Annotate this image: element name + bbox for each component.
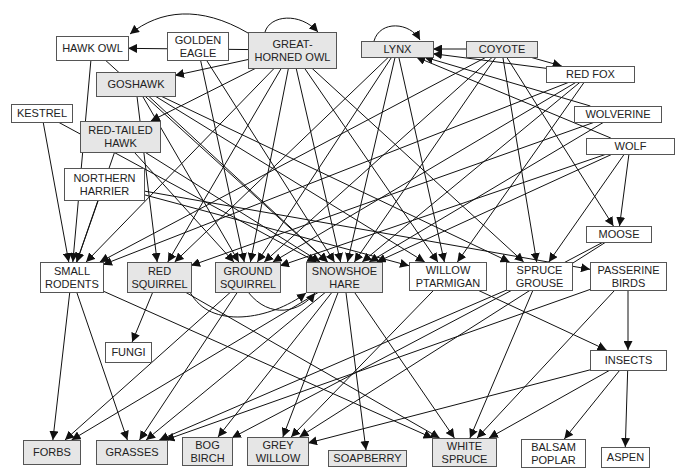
node-label: FORBS xyxy=(33,446,71,458)
node-label: SQUIRREL xyxy=(131,278,187,290)
node-label: GRASSES xyxy=(105,446,158,458)
edge-snowshoe-hare-to-soapberry xyxy=(346,292,366,450)
edge-coyote-to-ground-squirrel xyxy=(264,57,492,262)
node-label: PTARMIGAN xyxy=(416,277,481,289)
food-web-diagram: HAWK OWLGOLDENEAGLEGREAT-HORNED OWLLYNXC… xyxy=(0,0,679,475)
node-label: WHITE xyxy=(447,440,482,452)
node-label: POPLAR xyxy=(531,454,576,466)
edge-goshawk-to-willow-ptarmigan xyxy=(155,96,425,262)
node-label: LYNX xyxy=(384,43,413,55)
node-label: SMALL xyxy=(54,265,90,277)
edge-coyote-to-red-fox xyxy=(530,57,562,66)
node-great-horned-owl: GREAT-HORNED OWL xyxy=(249,33,337,69)
edge-snowshoe-hare-to-grey-willow xyxy=(283,292,338,437)
node-label: WILLOW xyxy=(256,452,301,464)
edge-coyote-to-spruce-grouse xyxy=(503,57,537,262)
node-label: BOG xyxy=(195,439,219,451)
node-balsam-poplar: BALSAMPOPLAR xyxy=(522,440,586,468)
edge-spruce-grouse-to-grasses xyxy=(159,290,506,440)
edge-great-horned-owl-to-small-rodents xyxy=(86,68,274,262)
node-goshawk: GOSHAWK xyxy=(97,73,176,97)
edge-ground-squirrel-to-forbs xyxy=(65,292,231,440)
node-label: HARE xyxy=(329,278,360,290)
edge-spruce-grouse-to-white-spruce xyxy=(470,290,533,438)
node-label: RODENTS xyxy=(45,278,99,290)
edge-great-horned-owl-to-snowshoe-hare xyxy=(296,68,340,262)
edge-insects-to-aspen xyxy=(625,370,627,447)
node-label: GOSHAWK xyxy=(107,78,165,90)
node-label: GROUSE xyxy=(516,277,564,289)
node-label: RED FOX xyxy=(566,68,616,80)
node-label: INSECTS xyxy=(605,354,653,366)
node-label: SQUIRREL xyxy=(220,278,276,290)
node-willow-ptarmigan: WILLOWPTARMIGAN xyxy=(410,263,487,291)
node-hawk-owl: HAWK OWL xyxy=(57,37,129,61)
node-label: BALSAM xyxy=(531,441,576,453)
node-label: GREY xyxy=(262,439,294,451)
node-insects: INSECTS xyxy=(591,351,667,371)
node-kestrel: KESTREL xyxy=(12,105,73,123)
node-red-fox: RED FOX xyxy=(547,67,635,83)
node-label: ASPEN xyxy=(607,451,644,463)
node-label: SOAPBERRY xyxy=(333,452,402,464)
node-label: MOOSE xyxy=(599,228,640,240)
node-wolf: WOLF xyxy=(587,139,675,155)
edge-snowshoe-hare-to-grasses xyxy=(146,292,326,440)
node-grey-willow: GREYWILLOW xyxy=(248,438,309,466)
node-passerine-birds: PASSERINEBIRDS xyxy=(591,263,667,291)
node-label: GREAT- xyxy=(272,38,312,50)
node-label: RED xyxy=(148,265,171,277)
edge-snowshoe-hare-to-forbs xyxy=(72,292,319,440)
node-grasses: GRASSES xyxy=(97,441,168,465)
node-aspen: ASPEN xyxy=(602,448,650,468)
edge-hawk-owl-to-small-rodents xyxy=(73,60,91,262)
node-coyote: COYOTE xyxy=(467,42,538,58)
node-label: GOLDEN xyxy=(175,34,222,46)
edge-red-squirrel-to-fungi xyxy=(132,292,153,342)
edge-wolf-to-moose xyxy=(620,154,629,226)
node-soapberry: SOAPBERRY xyxy=(329,451,407,467)
edge-wolf-to-snowshoe-hare xyxy=(377,154,613,262)
edge-small-rodents-to-forbs xyxy=(53,292,70,440)
edge-lynx-self xyxy=(374,26,420,41)
node-red-squirrel: REDSQUIRREL xyxy=(128,263,192,293)
edge-small-rodents-to-white-spruce xyxy=(103,291,433,438)
node-moose: MOOSE xyxy=(587,227,652,243)
edge-great-horned-owl-to-goshawk xyxy=(175,60,248,76)
node-northern-harrier: NORTHERNHARRIER xyxy=(65,169,145,201)
edge-red-fox-to-ground-squirrel xyxy=(273,82,577,262)
node-wolverine: WOLVERINE xyxy=(575,107,662,123)
node-lynx: LYNX xyxy=(362,42,434,58)
node-label: NORTHERN xyxy=(73,172,135,184)
nodes-layer: HAWK OWLGOLDENEAGLEGREAT-HORNED OWLLYNXC… xyxy=(12,33,675,468)
node-snowshoe-hare: SNOWSHOEHARE xyxy=(307,263,383,293)
node-label: RED-TAILED xyxy=(88,124,153,136)
node-forbs: FORBS xyxy=(24,441,81,465)
node-label: BIRCH xyxy=(190,452,224,464)
edge-great-horned-owl-self xyxy=(265,18,318,32)
node-golden-eagle: GOLDENEAGLE xyxy=(168,33,229,61)
node-label: COYOTE xyxy=(479,43,525,55)
node-ground-squirrel: GROUNDSQUIRREL xyxy=(216,263,281,293)
edge-wolverine-to-snowshoe-hare xyxy=(369,122,604,262)
edge-wolverine-to-red-squirrel xyxy=(191,122,595,266)
node-label: FUNGI xyxy=(111,346,145,358)
edge-insects-to-grey-willow xyxy=(308,370,590,443)
node-label: KESTREL xyxy=(17,107,67,119)
node-label: PASSERINE xyxy=(597,264,659,276)
node-label: HAWK OWL xyxy=(62,42,123,54)
node-small-rodents: SMALLRODENTS xyxy=(41,263,104,293)
edge-coyote-to-snowshoe-hare xyxy=(354,57,496,262)
node-fungi: FUNGI xyxy=(106,343,152,363)
node-label: GROUND xyxy=(224,265,273,277)
node-label: SNOWSHOE xyxy=(312,265,377,277)
node-label: EAGLE xyxy=(180,47,217,59)
edge-red-fox-to-snowshoe-hare xyxy=(362,82,580,262)
edge-willow-ptarmigan-to-grey-willow xyxy=(291,290,434,437)
node-label: BIRDS xyxy=(612,277,646,289)
node-label: HORNED OWL xyxy=(255,51,331,63)
node-label: HARRIER xyxy=(80,185,130,197)
node-bog-birch: BOGBIRCH xyxy=(183,438,233,466)
node-white-spruce: WHITESPRUCE xyxy=(433,439,497,467)
edge-golden-eagle-to-ground-squirrel xyxy=(201,60,245,262)
